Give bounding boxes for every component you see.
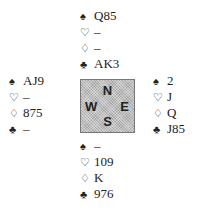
compass-west: W [85, 99, 97, 114]
diamond-icon: ♢ [153, 105, 165, 121]
heart-icon: ♡ [80, 24, 92, 40]
north-clubs: ♣AK3 [80, 56, 119, 72]
south-hand: ♠– ♡109 ♢K ♣976 [80, 138, 114, 202]
holding: – [94, 40, 101, 55]
diamond-icon: ♢ [80, 170, 92, 186]
holding: – [94, 138, 101, 153]
east-diamonds: ♢Q [153, 105, 185, 121]
west-clubs: ♣– [9, 121, 44, 137]
east-hearts: ♡J [153, 89, 185, 105]
spade-icon: ♠ [80, 8, 92, 24]
east-spades: ♠2 [153, 73, 185, 89]
holding: K [94, 170, 103, 185]
west-spades: ♠AJ9 [9, 73, 44, 89]
holding: AJ9 [23, 73, 44, 88]
heart-icon: ♡ [80, 154, 92, 170]
holding: J [167, 89, 172, 104]
club-icon: ♣ [80, 56, 92, 72]
spade-icon: ♠ [153, 73, 165, 89]
diamond-icon: ♢ [80, 40, 92, 56]
east-hand: ♠2 ♡J ♢Q ♣J85 [153, 73, 185, 137]
holding: 109 [94, 154, 114, 169]
holding: – [94, 24, 101, 39]
holding: 875 [23, 105, 43, 120]
holding: AK3 [94, 56, 119, 71]
east-clubs: ♣J85 [153, 121, 185, 137]
holding: 976 [94, 186, 114, 201]
compass-east: E [120, 99, 129, 114]
club-icon: ♣ [80, 186, 92, 202]
holding: Q [167, 105, 176, 120]
holding: – [23, 89, 30, 104]
north-diamonds: ♢– [80, 40, 119, 56]
heart-icon: ♡ [9, 89, 21, 105]
holding: Q85 [94, 8, 116, 23]
south-clubs: ♣976 [80, 186, 114, 202]
south-hearts: ♡109 [80, 154, 114, 170]
club-icon: ♣ [153, 121, 165, 137]
diamond-icon: ♢ [9, 105, 21, 121]
west-hearts: ♡– [9, 89, 44, 105]
west-hand: ♠AJ9 ♡– ♢875 ♣– [9, 73, 44, 137]
club-icon: ♣ [9, 121, 21, 137]
north-spades: ♠Q85 [80, 8, 119, 24]
spade-icon: ♠ [9, 73, 21, 89]
holding: J85 [167, 121, 185, 136]
north-hearts: ♡– [80, 24, 119, 40]
holding: 2 [167, 73, 174, 88]
compass-north: N [81, 83, 134, 98]
west-diamonds: ♢875 [9, 105, 44, 121]
south-diamonds: ♢K [80, 170, 114, 186]
compass-box: N W E S [80, 79, 135, 133]
south-spades: ♠– [80, 138, 114, 154]
spade-icon: ♠ [80, 138, 92, 154]
compass-south: S [81, 114, 134, 129]
north-hand: ♠Q85 ♡– ♢– ♣AK3 [80, 8, 119, 72]
heart-icon: ♡ [153, 89, 165, 105]
holding: – [23, 121, 30, 136]
